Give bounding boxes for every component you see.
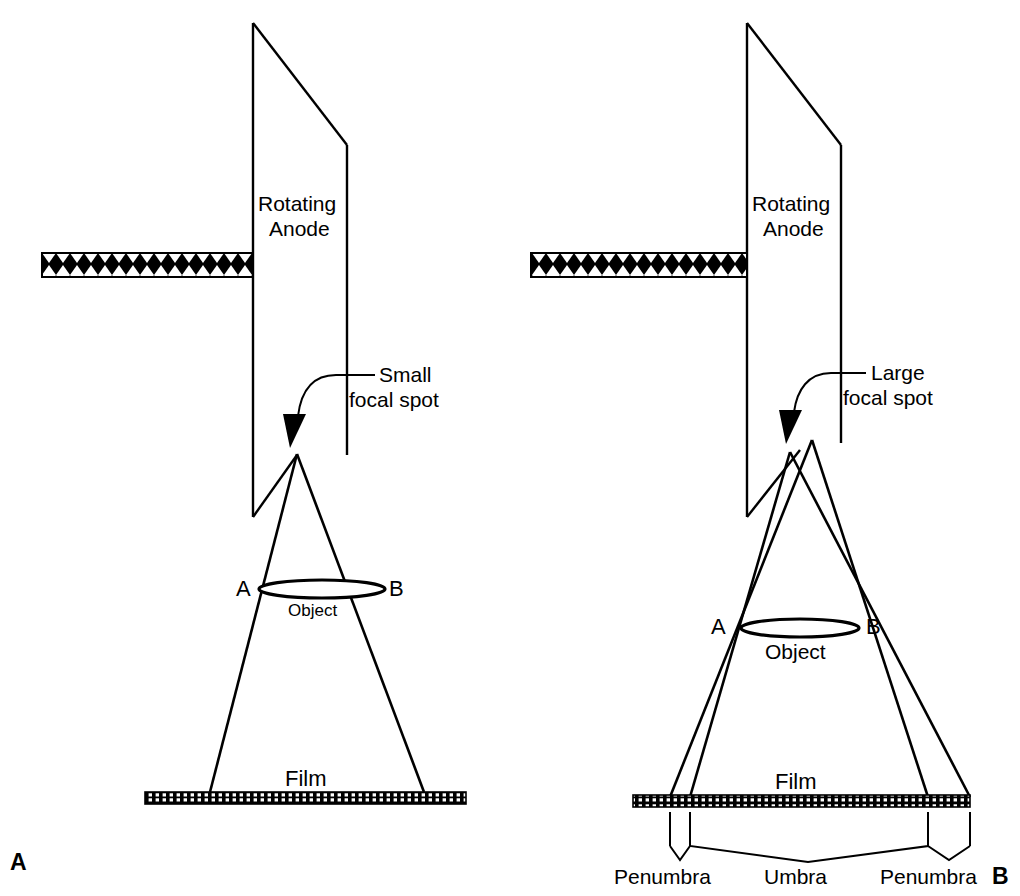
diagram-svg: Rotating Anode Small focal spot A B Obje… <box>0 0 1020 896</box>
object-b <box>741 619 859 637</box>
anode-label-a-line1: Rotating <box>258 192 336 215</box>
object-a <box>259 580 385 598</box>
anode-label-a-line2: Anode <box>269 217 330 240</box>
film-label-a: Film <box>285 766 327 791</box>
focal-spot-label-b-line2: focal spot <box>843 386 933 409</box>
anode-label-b-line1: Rotating <box>752 192 830 215</box>
panel-b: Rotating Anode Large focal spot A B Obje… <box>531 23 1009 889</box>
film-a <box>145 792 466 804</box>
rotating-anode-b <box>747 23 841 517</box>
focal-spot-label-a-line1: Small <box>379 363 432 386</box>
object-label-a: Object <box>288 601 337 620</box>
point-b-label-a: B <box>389 576 404 601</box>
electron-beam-b <box>531 253 747 277</box>
object-label-b: Object <box>765 640 826 663</box>
panel-a: Rotating Anode Small focal spot A B Obje… <box>10 23 466 875</box>
penumbra-label-right: Penumbra <box>880 865 977 888</box>
figure-canvas: Rotating Anode Small focal spot A B Obje… <box>0 0 1020 896</box>
xray-beam-a <box>210 454 424 792</box>
panel-label-a: A <box>10 849 27 875</box>
film-b <box>633 795 970 807</box>
umbra-label: Umbra <box>764 865 827 888</box>
electron-beam-a <box>42 253 253 277</box>
anode-label-b-line2: Anode <box>763 217 824 240</box>
point-b-label-b: B <box>866 614 881 639</box>
rotating-anode-a <box>253 23 347 517</box>
focal-spot-label-a-line2: focal spot <box>349 388 439 411</box>
film-label-b: Film <box>775 769 817 794</box>
focal-spot-label-b-line1: Large <box>871 361 925 384</box>
penumbra-label-left: Penumbra <box>614 865 711 888</box>
point-a-label-a: A <box>236 576 251 601</box>
focal-spot-pointer-a <box>283 375 375 448</box>
penumbra-umbra-brackets <box>670 812 970 862</box>
panel-label-b: B <box>992 863 1009 889</box>
point-a-label-b: A <box>711 614 726 639</box>
